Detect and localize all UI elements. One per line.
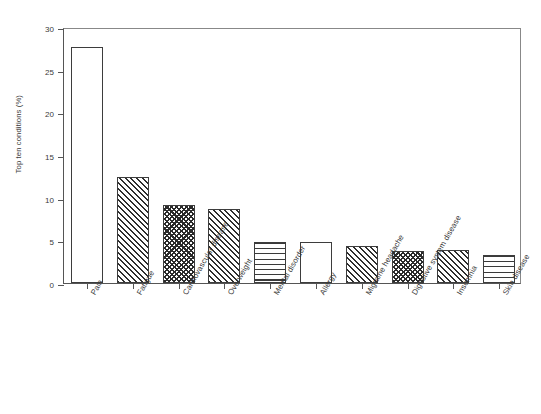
bar-fatigue (117, 177, 149, 283)
y-axis-tick-label: 5 (50, 238, 54, 247)
y-axis-tick-label: 0 (50, 281, 54, 290)
y-axis-tick-label: 10 (45, 195, 54, 204)
plot-area: 051015202530 (63, 28, 521, 284)
y-axis-tick-label: 15 (45, 153, 54, 162)
x-axis-tick (499, 283, 500, 289)
x-axis-labels: PainFatigueCardiovascular diseaseOverwei… (63, 292, 521, 412)
bar-series (64, 29, 520, 283)
y-axis-tick-label: 30 (45, 25, 54, 34)
x-axis-tick (408, 283, 409, 289)
bar-cardiovascular-disease (163, 205, 195, 284)
x-axis-tick (87, 283, 88, 289)
y-axis-tick (58, 285, 64, 286)
bar-pain (71, 47, 103, 283)
bar-chart-figure: Top ten conditions (%) 051015202530 Pain… (0, 0, 541, 414)
x-axis-tick (133, 283, 134, 289)
x-axis-tick (179, 283, 180, 289)
y-axis-title-text: Top ten conditions (%) (14, 95, 23, 245)
y-axis-tick-label: 20 (45, 110, 54, 119)
x-axis-tick (270, 283, 271, 289)
x-axis-tick (362, 283, 363, 289)
x-axis-tick (224, 283, 225, 289)
y-axis-tick-label: 25 (45, 67, 54, 76)
x-axis-tick (316, 283, 317, 289)
x-axis-tick (453, 283, 454, 289)
y-axis-title: Top ten conditions (%) (14, 0, 23, 95)
